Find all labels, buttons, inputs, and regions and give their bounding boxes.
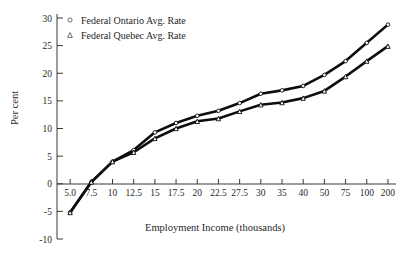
circle-marker-icon	[259, 92, 263, 96]
x-tick-label: 30	[256, 188, 266, 198]
y-tick-label: 10	[43, 124, 53, 134]
legend-item-label: Federal Quebec Avg. Rate	[81, 30, 186, 41]
y-tick-label: 20	[43, 69, 53, 79]
circle-marker-icon	[365, 41, 369, 45]
x-axis-title: Employment Income (thousands)	[145, 222, 285, 234]
x-tick-label: 27.5	[231, 188, 248, 198]
y-tick-label: 25	[43, 41, 53, 51]
y-tick-label: 15	[43, 96, 53, 106]
circle-marker-icon	[280, 89, 284, 93]
x-tick-label: 20	[193, 188, 203, 198]
circle-marker-icon	[195, 114, 199, 118]
circle-marker-icon	[217, 109, 221, 113]
x-tick-label: 35	[277, 188, 287, 198]
circle-marker-icon	[174, 121, 178, 125]
y-axis-title: Per cent	[9, 91, 20, 125]
legend-item-label: Federal Ontario Avg. Rate	[81, 15, 186, 26]
x-tick-label: 75	[341, 188, 351, 198]
circle-marker-icon	[238, 101, 242, 105]
x-tick-label: 22.5	[210, 188, 227, 198]
x-tick-label: 12.5	[125, 188, 142, 198]
circle-marker-icon	[386, 23, 390, 27]
chart-figure: 302520151050-5-10 Per cent 5.07.51012.51…	[0, 0, 403, 257]
y-tick-label: -10	[39, 235, 52, 245]
y-tick-label: -5	[44, 207, 52, 217]
circle-marker-icon	[301, 84, 305, 88]
circle-marker-icon	[344, 59, 348, 63]
x-tick-label: 10	[108, 188, 118, 198]
y-tick-label: 30	[43, 14, 53, 24]
x-tick-label: 200	[381, 188, 396, 198]
x-tick-label: 17.5	[168, 188, 185, 198]
x-tick-label: 5.0	[64, 188, 76, 198]
y-tick-label: 5	[47, 152, 52, 162]
circle-marker-icon	[68, 18, 72, 22]
x-tick-label: 40	[298, 188, 308, 198]
x-tick-label: 100	[360, 188, 375, 198]
x-tick-label: 50	[320, 188, 330, 198]
x-tick-label: 15	[150, 188, 160, 198]
circle-marker-icon	[153, 131, 157, 135]
chart-canvas: 302520151050-5-10 Per cent 5.07.51012.51…	[0, 0, 403, 257]
circle-marker-icon	[323, 73, 327, 77]
y-tick-label: 0	[47, 179, 52, 189]
